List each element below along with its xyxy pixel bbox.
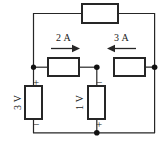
current-arrow-left-head [72,45,80,52]
middle-source-minus-sign: − [96,77,102,88]
current-label-left: 2 A [56,33,71,43]
left-source-minus-sign: − [33,119,39,130]
left-voltage-source-box [25,86,42,119]
circuit-schematic-svg [0,0,165,146]
node-bottom-center [94,130,100,136]
middle-source-plus-sign: + [96,119,102,130]
top-branch-resistor-box [82,4,118,23]
circuit-diagram: 2 A 3 A 3 V + − 1 V − + [0,0,165,146]
middle-source-value: 1 V [75,95,85,110]
current-label-right: 3 A [114,33,129,43]
node-left-middle [31,65,36,70]
node-right-middle [152,64,158,70]
left-middle-resistor-box [48,58,79,76]
left-source-value: 3 V [13,95,23,110]
node-center-middle [94,64,100,70]
current-arrow-right-head [107,45,115,52]
right-middle-resistor-box [114,58,145,76]
middle-voltage-source-box [88,86,105,119]
left-source-plus-sign: + [33,77,39,88]
